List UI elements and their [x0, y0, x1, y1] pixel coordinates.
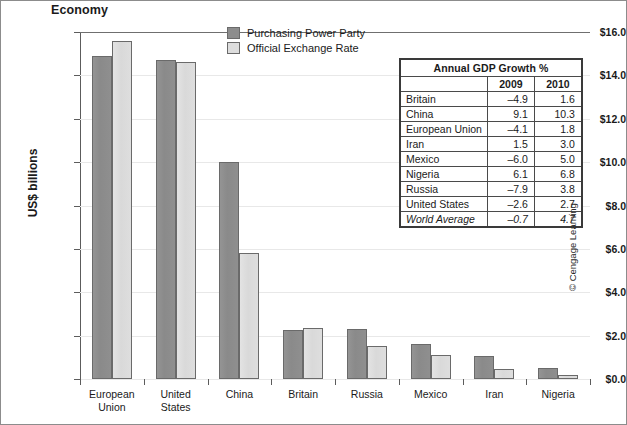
table-title: Annual GDP Growth %: [400, 59, 582, 77]
table-header-2010: 2010: [534, 77, 582, 92]
bar-group: [208, 32, 272, 379]
bar: [558, 375, 578, 379]
x-tick-label-line: Nigeria: [526, 388, 590, 401]
table-cell-2010: 10.3: [534, 107, 582, 122]
table-row: European Union–4.11.8: [400, 122, 582, 137]
x-tick-mark: [144, 379, 145, 385]
legend-swatch-icon-oer: [227, 42, 240, 54]
table-body: Britain–4.91.6China9.110.3European Union…: [400, 92, 582, 228]
x-tick-mark: [590, 379, 591, 385]
x-tick-label: China: [208, 388, 272, 401]
x-tick-label-line: Russia: [335, 388, 399, 401]
x-tick-label-line: Union: [80, 401, 144, 414]
bar: [176, 62, 196, 379]
bar-group: [144, 32, 208, 379]
x-tick-mark: [335, 379, 336, 385]
x-tick-label-line: Iran: [463, 388, 527, 401]
legend-item-ppp: Purchasing Power Party: [227, 27, 365, 39]
table-cell-2009: –4.9: [487, 92, 534, 107]
bar: [367, 346, 387, 379]
bar: [303, 328, 323, 379]
copyright-credit: © Cengage Learning: [567, 171, 578, 291]
table-row: Iran1.53.0: [400, 137, 582, 152]
x-tick-mark: [399, 379, 400, 385]
bar: [239, 253, 259, 379]
table-cell-country: Iran: [400, 137, 487, 152]
x-tick-label: Nigeria: [526, 388, 590, 401]
y-axis-label: US$ billions: [26, 123, 40, 243]
legend-label-ppp: Purchasing Power Party: [247, 27, 365, 39]
bar: [474, 356, 494, 379]
table-header-row: 2009 2010: [400, 77, 582, 92]
x-tick-label: Mexico: [399, 388, 463, 401]
table-header-blank: [400, 77, 487, 92]
x-tick-label: Britain: [271, 388, 335, 401]
x-tick-mark: [463, 379, 464, 385]
table-cell-2009: –7.9: [487, 182, 534, 197]
table-cell-country: China: [400, 107, 487, 122]
x-tick-label-line: States: [144, 401, 208, 414]
legend-item-oer: Official Exchange Rate: [227, 42, 365, 54]
legend-label-oer: Official Exchange Rate: [247, 42, 359, 54]
table-row: United States–2.62.7: [400, 197, 582, 212]
bar: [283, 330, 303, 379]
table-cell-country: Nigeria: [400, 167, 487, 182]
x-tick-mark: [208, 379, 209, 385]
bar-group: [335, 32, 399, 379]
x-tick-label: UnitedStates: [144, 388, 208, 413]
bar: [411, 344, 431, 379]
x-tick-mark: [80, 379, 81, 385]
bar: [494, 369, 514, 379]
table-cell-2009: –0.7: [487, 212, 534, 228]
table-cell-2009: –6.0: [487, 152, 534, 167]
chart-figure: Economy US$ billions $16.0$14.0$12.0$10.…: [0, 0, 627, 425]
table-row: China9.110.3: [400, 107, 582, 122]
table-cell-2009: –4.1: [487, 122, 534, 137]
x-tick-mark: [271, 379, 272, 385]
table-cell-2009: 9.1: [487, 107, 534, 122]
table-cell-2010: 5.0: [534, 152, 582, 167]
legend: Purchasing Power Party Official Exchange…: [227, 27, 365, 57]
gdp-growth-table: Annual GDP Growth % 2009 2010 Britain–4.…: [399, 58, 583, 228]
table-row: Mexico–6.05.0: [400, 152, 582, 167]
table-row: Russia–7.93.8: [400, 182, 582, 197]
table-cell-2009: 1.5: [487, 137, 534, 152]
bar-group: [80, 32, 144, 379]
table-cell-2010: 1.6: [534, 92, 582, 107]
table-row: World Average–0.74.7: [400, 212, 582, 228]
bar: [538, 368, 558, 379]
table-cell-country: Britain: [400, 92, 487, 107]
table: Annual GDP Growth % 2009 2010 Britain–4.…: [399, 58, 583, 228]
table-row: Britain–4.91.6: [400, 92, 582, 107]
bar: [92, 56, 112, 379]
bar: [156, 60, 176, 379]
table-cell-2009: –2.6: [487, 197, 534, 212]
table-cell-2009: 6.1: [487, 167, 534, 182]
x-tick-label-line: China: [208, 388, 272, 401]
table-head: Annual GDP Growth % 2009 2010: [400, 59, 582, 92]
bar: [112, 41, 132, 379]
table-cell-2010: 1.8: [534, 122, 582, 137]
x-tick-label-line: Britain: [271, 388, 335, 401]
bar-group: [271, 32, 335, 379]
x-tick-mark: [526, 379, 527, 385]
x-tick-label: Russia: [335, 388, 399, 401]
table-title-row: Annual GDP Growth %: [400, 59, 582, 77]
bar: [431, 355, 451, 379]
table-header-2009: 2009: [487, 77, 534, 92]
bar: [219, 162, 239, 379]
x-tick-label-line: European: [80, 388, 144, 401]
bar: [347, 329, 367, 379]
table-cell-country: European Union: [400, 122, 487, 137]
chart-title: Economy: [51, 3, 108, 17]
legend-swatch-icon-ppp: [227, 27, 240, 39]
x-tick-label: EuropeanUnion: [80, 388, 144, 413]
table-cell-country: United States: [400, 197, 487, 212]
table-cell-country: World Average: [400, 212, 487, 228]
table-cell-country: Mexico: [400, 152, 487, 167]
table-row: Nigeria6.16.8: [400, 167, 582, 182]
x-tick-label: Iran: [463, 388, 527, 401]
x-tick-label-line: United: [144, 388, 208, 401]
table-cell-country: Russia: [400, 182, 487, 197]
table-cell-2010: 3.0: [534, 137, 582, 152]
